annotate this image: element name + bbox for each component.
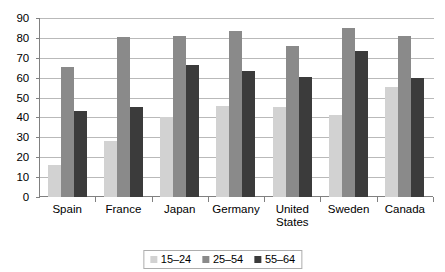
x-tick-mark xyxy=(377,197,378,202)
x-tick-mark xyxy=(208,197,209,202)
bar-group xyxy=(264,18,320,197)
y-tick-label: 0 xyxy=(23,191,29,203)
bar xyxy=(286,46,299,197)
bar-group xyxy=(95,18,151,197)
bar xyxy=(342,28,355,197)
legend-item[interactable]: 25–54 xyxy=(202,253,243,265)
bar-group xyxy=(208,18,264,197)
bar xyxy=(299,77,312,197)
bar xyxy=(411,78,424,197)
bar xyxy=(74,111,87,197)
bar-group xyxy=(39,18,95,197)
y-tick-label: 30 xyxy=(16,131,29,143)
legend-swatch-icon xyxy=(202,256,209,263)
bar xyxy=(61,67,74,197)
bar xyxy=(130,107,143,197)
x-tick-label: Spain xyxy=(36,203,98,216)
bar xyxy=(229,31,242,197)
y-tick-label: 20 xyxy=(16,151,29,163)
x-tick-mark xyxy=(433,197,434,202)
bars-layer xyxy=(39,18,433,197)
bar xyxy=(104,141,117,197)
bar-group xyxy=(320,18,376,197)
bar xyxy=(117,37,130,197)
y-tick-label: 40 xyxy=(16,111,29,123)
x-tick-label: Germany xyxy=(205,203,267,216)
y-tick-label: 80 xyxy=(16,32,29,44)
y-tick-label: 60 xyxy=(16,72,29,84)
legend-label: 25–54 xyxy=(213,253,243,265)
x-tick-mark xyxy=(95,197,96,202)
x-tick-label: United States xyxy=(261,203,323,229)
y-tick-label: 50 xyxy=(16,92,29,104)
y-tick-label: 70 xyxy=(16,52,29,64)
legend-item[interactable]: 15–24 xyxy=(150,253,191,265)
x-tick-mark xyxy=(152,197,153,202)
y-axis: 0102030405060708090 xyxy=(0,0,39,272)
legend-label: 55–64 xyxy=(265,253,295,265)
x-tick-label: Sweden xyxy=(318,203,380,216)
bar xyxy=(355,51,368,197)
bar xyxy=(385,87,398,197)
legend-label: 15–24 xyxy=(161,253,191,265)
bar-group xyxy=(152,18,208,197)
bar xyxy=(160,117,173,197)
bar xyxy=(398,36,411,197)
x-tick-mark xyxy=(264,197,265,202)
x-tick-label: France xyxy=(92,203,154,216)
bar xyxy=(48,165,61,197)
chart-legend: 15–2425–5455–64 xyxy=(143,250,302,269)
legend-item[interactable]: 55–64 xyxy=(254,253,295,265)
bar-group xyxy=(377,18,433,197)
bar xyxy=(273,107,286,197)
x-tick-mark xyxy=(320,197,321,202)
bar xyxy=(329,115,342,197)
x-tick-label: Japan xyxy=(149,203,211,216)
legend-swatch-icon xyxy=(150,256,157,263)
x-tick-label: Canada xyxy=(374,203,436,216)
bar-chart: 0102030405060708090 SpainFranceJapanGerm… xyxy=(0,0,445,272)
y-tick-label: 90 xyxy=(16,12,29,24)
legend-swatch-icon xyxy=(254,256,261,263)
y-tick-label: 10 xyxy=(16,171,29,183)
bar xyxy=(216,106,229,197)
bar xyxy=(173,36,186,197)
bar xyxy=(186,65,199,197)
x-axis: SpainFranceJapanGermanyUnited StatesSwed… xyxy=(39,203,433,243)
bar xyxy=(242,71,255,197)
